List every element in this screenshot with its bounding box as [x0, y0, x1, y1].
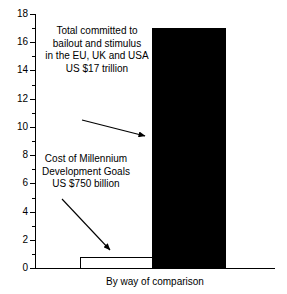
y-tick-label-16: 16	[2, 37, 28, 47]
y-tick-major-10	[30, 127, 36, 128]
y-tick-major-18	[30, 14, 36, 15]
y-tick-major-4	[30, 212, 36, 213]
y-tick-minor-1	[32, 254, 36, 255]
y-tick-label-8: 8	[2, 150, 28, 160]
y-tick-major-12	[30, 99, 36, 100]
y-tick-label-0: 0	[2, 263, 28, 273]
bar-chart: 18 16 14 12 10 8 6 4 2 0	[0, 0, 287, 294]
y-tick-minor-9	[32, 141, 36, 142]
y-tick-major-2	[30, 240, 36, 241]
y-tick-label-14: 14	[2, 65, 28, 75]
y-tick-minor-3	[32, 226, 36, 227]
y-tick-label-4: 4	[2, 207, 28, 217]
arrow-to-bailout-bar	[82, 120, 145, 136]
arrow-to-mdg-bar	[62, 199, 110, 250]
annotation-mdg-line-1: Cost of Millennium	[30, 153, 142, 166]
annotation-millennium-development-goals: Cost of Millennium Development Goals US …	[30, 153, 142, 191]
bar-millennium-development-goals	[80, 257, 153, 269]
bar-bailout-and-stimulus	[152, 28, 226, 269]
annotation-mdg-line-2: Development Goals	[30, 166, 142, 179]
y-tick-label-12: 12	[2, 94, 28, 104]
annotation-bailout-line-1: Total committed to	[36, 25, 158, 38]
y-tick-minor-5	[32, 198, 36, 199]
annotation-bailout-line-3: in the EU, UK and USA	[36, 50, 158, 63]
annotation-bailout-line-2: bailout and stimulus	[36, 38, 158, 51]
x-axis-title: By way of comparison	[35, 276, 275, 288]
y-tick-label-10: 10	[2, 122, 28, 132]
y-tick-label-2: 2	[2, 235, 28, 245]
y-tick-label-6: 6	[2, 178, 28, 188]
annotation-bailout: Total committed to bailout and stimulus …	[36, 25, 158, 75]
y-tick-minor-13	[32, 85, 36, 86]
y-tick-label-18: 18	[2, 9, 28, 19]
annotation-bailout-line-4: US $17 trillion	[36, 63, 158, 76]
annotation-mdg-line-3: US $750 billion	[30, 178, 142, 191]
y-tick-minor-11	[32, 113, 36, 114]
y-tick-major-0	[30, 268, 36, 269]
